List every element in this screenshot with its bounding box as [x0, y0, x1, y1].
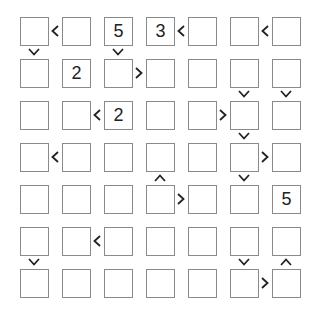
cell-r1-c2[interactable] [104, 59, 133, 88]
less-than-icon [90, 234, 104, 248]
cell-r2-c1[interactable] [62, 101, 91, 130]
cell-r5-c5[interactable] [230, 227, 259, 256]
less-than-icon [90, 108, 104, 122]
cell-r1-c3[interactable] [146, 59, 175, 88]
cell-r0-c6[interactable] [272, 17, 301, 46]
less-than-icon [48, 150, 62, 164]
cell-r3-c0[interactable] [20, 143, 49, 172]
cell-r3-c5[interactable] [230, 143, 259, 172]
greater-than-icon [258, 150, 272, 164]
greater-than-icon [132, 66, 146, 80]
cell-r4-c6[interactable]: 5 [272, 185, 301, 214]
cell-r2-c5[interactable] [230, 101, 259, 130]
chevron-down-icon [237, 129, 251, 143]
cell-r4-c0[interactable] [20, 185, 49, 214]
chevron-down-icon [237, 171, 251, 185]
cell-r1-c6[interactable] [272, 59, 301, 88]
cell-r0-c1[interactable] [62, 17, 91, 46]
cell-r3-c2[interactable] [104, 143, 133, 172]
cell-r1-c0[interactable] [20, 59, 49, 88]
cell-r1-c4[interactable] [188, 59, 217, 88]
cell-r6-c0[interactable] [20, 269, 49, 298]
cell-r2-c3[interactable] [146, 101, 175, 130]
cell-r3-c3[interactable] [146, 143, 175, 172]
cell-r3-c6[interactable] [272, 143, 301, 172]
less-than-icon [258, 24, 272, 38]
cell-r5-c3[interactable] [146, 227, 175, 256]
cell-r2-c2[interactable]: 2 [104, 101, 133, 130]
cell-r0-c3[interactable]: 3 [146, 17, 175, 46]
cell-r6-c1[interactable] [62, 269, 91, 298]
chevron-up-icon [279, 255, 293, 269]
cell-r5-c6[interactable] [272, 227, 301, 256]
cell-r1-c5[interactable] [230, 59, 259, 88]
chevron-down-icon [237, 255, 251, 269]
cell-r6-c3[interactable] [146, 269, 175, 298]
chevron-down-icon [27, 255, 41, 269]
cell-r0-c2[interactable]: 5 [104, 17, 133, 46]
cell-r2-c6[interactable] [272, 101, 301, 130]
cell-r4-c5[interactable] [230, 185, 259, 214]
futoshiki-board: 53225 [0, 0, 321, 318]
less-than-icon [174, 24, 188, 38]
cell-r4-c4[interactable] [188, 185, 217, 214]
cell-r3-c4[interactable] [188, 143, 217, 172]
greater-than-icon [174, 192, 188, 206]
less-than-icon [48, 24, 62, 38]
chevron-up-icon [153, 171, 167, 185]
cell-r2-c0[interactable] [20, 101, 49, 130]
greater-than-icon [216, 108, 230, 122]
cell-r4-c1[interactable] [62, 185, 91, 214]
cell-r6-c4[interactable] [188, 269, 217, 298]
cell-r6-c2[interactable] [104, 269, 133, 298]
cell-r5-c2[interactable] [104, 227, 133, 256]
cell-r0-c4[interactable] [188, 17, 217, 46]
cell-r5-c1[interactable] [62, 227, 91, 256]
greater-than-icon [258, 276, 272, 290]
chevron-down-icon [279, 87, 293, 101]
cell-r6-c5[interactable] [230, 269, 259, 298]
cell-r5-c0[interactable] [20, 227, 49, 256]
cell-r1-c1[interactable]: 2 [62, 59, 91, 88]
cell-r2-c4[interactable] [188, 101, 217, 130]
chevron-down-icon [111, 45, 125, 59]
cell-r0-c0[interactable] [20, 17, 49, 46]
cell-r3-c1[interactable] [62, 143, 91, 172]
cell-r5-c4[interactable] [188, 227, 217, 256]
cell-r6-c6[interactable] [272, 269, 301, 298]
cell-r4-c3[interactable] [146, 185, 175, 214]
cell-r4-c2[interactable] [104, 185, 133, 214]
chevron-down-icon [27, 45, 41, 59]
chevron-down-icon [237, 87, 251, 101]
cell-r0-c5[interactable] [230, 17, 259, 46]
